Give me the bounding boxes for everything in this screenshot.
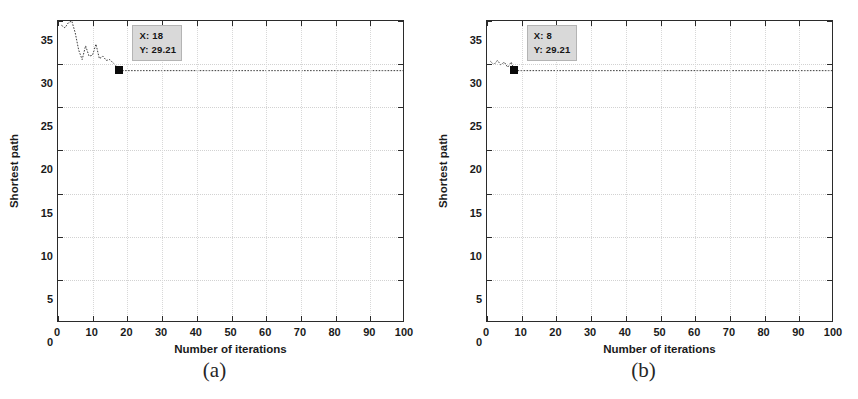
- gridline-vertical: [799, 21, 800, 321]
- x-axis-tick: [591, 316, 592, 321]
- y-axis-tick-right: [398, 107, 403, 108]
- x-axis-tick-top: [58, 21, 59, 26]
- x-axis-tick: [162, 316, 163, 321]
- x-axis-tick: [127, 316, 128, 321]
- x-axis-tick: [695, 316, 696, 321]
- gridline-vertical: [232, 21, 233, 321]
- x-axis-tick: [197, 316, 198, 321]
- data-tip-x-a: X: 18: [139, 29, 176, 43]
- x-axis-tick: [232, 316, 233, 321]
- gridline-vertical: [765, 21, 766, 321]
- y-axis-tick: [487, 64, 492, 65]
- x-axis-tick-top: [730, 21, 731, 26]
- y-axis-tick: [58, 64, 63, 65]
- gridline-vertical: [661, 21, 662, 321]
- y-axis-tick-label: 5: [47, 293, 53, 305]
- y-axis-tick-right: [398, 280, 403, 281]
- caption-a: (a): [0, 358, 429, 383]
- gridline-vertical: [370, 21, 371, 321]
- gridline-vertical: [266, 21, 267, 321]
- y-axis-tick: [58, 280, 63, 281]
- plot-area-a: X: 18 Y: 29.21 0510152025303501020304050…: [57, 20, 404, 322]
- x-axis-tick-top: [336, 21, 337, 26]
- gridline-horizontal: [58, 150, 403, 151]
- x-axis-tick-top: [127, 21, 128, 26]
- gridline-vertical: [93, 21, 94, 321]
- x-axis-tick: [487, 316, 488, 321]
- data-tip-b[interactable]: X: 8 Y: 29.21: [527, 25, 577, 62]
- x-axis-tick-label: 20: [120, 326, 132, 338]
- data-tip-x-b: X: 8: [534, 29, 571, 43]
- gridline-horizontal: [58, 194, 403, 195]
- gridline-vertical: [301, 21, 302, 321]
- x-axis-tick-top: [370, 21, 371, 26]
- x-axis-tick-top: [661, 21, 662, 26]
- plot-box-b: [486, 20, 833, 322]
- x-axis-tick-top: [765, 21, 766, 26]
- gridline-horizontal: [58, 280, 403, 281]
- x-axis-tick-label: 70: [294, 326, 306, 338]
- series-line-a: [58, 21, 403, 321]
- x-axis-tick-label: 60: [688, 326, 700, 338]
- gridline-horizontal: [487, 107, 832, 108]
- y-axis-tick-right: [827, 194, 832, 195]
- y-axis-tick-label: 10: [41, 250, 53, 262]
- y-axis-tick: [487, 150, 492, 151]
- gridline-vertical: [197, 21, 198, 321]
- x-axis-tick-top: [522, 21, 523, 26]
- y-axis-tick-label: 20: [470, 163, 482, 175]
- y-axis-tick: [487, 107, 492, 108]
- x-axis-tick-top: [695, 21, 696, 26]
- y-axis-tick: [487, 280, 492, 281]
- gridline-horizontal: [487, 237, 832, 238]
- y-axis-tick-right: [827, 64, 832, 65]
- y-axis-tick-right: [827, 150, 832, 151]
- data-tip-y-b: Y: 29.21: [534, 43, 571, 57]
- gridline-vertical: [626, 21, 627, 321]
- gridline-horizontal: [487, 194, 832, 195]
- x-axis-tick-label: 40: [619, 326, 631, 338]
- y-axis-tick-right: [827, 237, 832, 238]
- data-marker-b[interactable]: [510, 66, 518, 74]
- x-axis-tick-label: 30: [584, 326, 596, 338]
- x-axis-tick-label: 50: [224, 326, 236, 338]
- x-axis-tick-label: 70: [723, 326, 735, 338]
- series-line-b: [487, 21, 832, 321]
- data-marker-a[interactable]: [115, 66, 123, 74]
- y-axis-tick-label: 25: [470, 120, 482, 132]
- y-axis-tick: [487, 194, 492, 195]
- gridline-vertical: [695, 21, 696, 321]
- x-axis-tick-top: [626, 21, 627, 26]
- y-axis-tick-right: [398, 64, 403, 65]
- panel-b: Shortest path X: 8 Y: 29.21 051015202530…: [429, 0, 858, 399]
- x-axis-tick-top: [591, 21, 592, 26]
- y-axis-tick-label: 0: [47, 336, 53, 348]
- gridline-vertical: [522, 21, 523, 321]
- x-axis-tick: [765, 316, 766, 321]
- figure-two-panel-convergence: Shortest path X: 18 Y: 29.21 05101520253…: [0, 0, 858, 399]
- x-axis-tick-top: [266, 21, 267, 26]
- x-axis-tick-top: [301, 21, 302, 26]
- data-tip-y-a: Y: 29.21: [139, 43, 176, 57]
- x-axis-tick: [661, 316, 662, 321]
- x-axis-tick-label: 100: [395, 326, 413, 338]
- x-axis-tick: [370, 316, 371, 321]
- gridline-horizontal: [487, 150, 832, 151]
- data-tip-a[interactable]: X: 18 Y: 29.21: [132, 25, 182, 62]
- x-axis-tick: [556, 316, 557, 321]
- x-axis-tick: [93, 316, 94, 321]
- y-axis-tick-label: 10: [470, 250, 482, 262]
- gridline-vertical: [127, 21, 128, 321]
- y-axis-tick-label: 30: [470, 77, 482, 89]
- x-axis-tick-label: 30: [155, 326, 167, 338]
- x-axis-tick: [266, 316, 267, 321]
- y-axis-tick-label: 15: [41, 207, 53, 219]
- y-axis-label-a: Shortest path: [6, 20, 22, 322]
- x-axis-tick-top: [93, 21, 94, 26]
- y-axis-tick-right: [398, 21, 403, 22]
- x-axis-tick-label: 0: [54, 326, 60, 338]
- gridline-vertical: [336, 21, 337, 321]
- x-axis-tick-label: 90: [363, 326, 375, 338]
- y-axis-tick-label: 35: [470, 34, 482, 46]
- gridline-horizontal: [487, 64, 832, 65]
